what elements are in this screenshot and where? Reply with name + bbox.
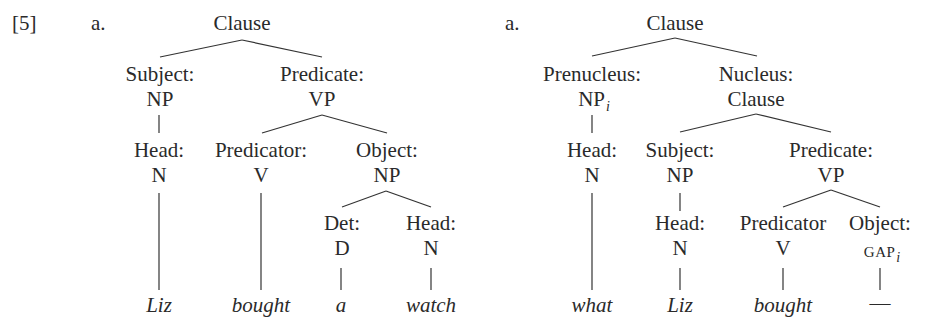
panel-label-b: a. [505,12,520,34]
node-det-cat: D [334,237,349,259]
word-a: a [336,294,347,316]
node-subject-func: Subject: [646,139,715,161]
word-bought: bought [754,294,812,316]
node-object-head-func: Head: [406,212,456,234]
node-subject-cat: NP [147,88,174,110]
node-predicator-cat: V [253,164,268,186]
node-subject-head-cat: N [151,164,166,186]
gap-dash: — [870,292,891,314]
node-object-cat: GAPi [864,239,900,264]
node-subject-head-func: Head: [655,212,705,234]
node-predicator-func: Predicator [740,212,826,234]
node-root-clause: Clause [213,12,270,34]
node-predicator-cat: V [775,237,790,259]
node-predicator-func: Predicator: [215,139,307,161]
node-nucleus-func: Nucleus: [719,63,794,85]
node-root-clause: Clause [646,12,703,34]
gap-index: i [896,250,900,265]
node-subject-func: Subject: [126,63,195,85]
node-predicate-func: Predicate: [789,139,873,161]
node-subject-head-func: Head: [134,139,184,161]
node-prenucleus-head-func: Head: [567,139,617,161]
node-subject-head-cat: N [672,237,687,259]
example-number: [5] [12,12,37,34]
prenucleus-index: i [606,99,610,114]
word-liz: Liz [667,294,693,316]
word-bought: bought [232,294,290,316]
tree-branches [0,0,925,325]
node-object-head-cat: N [423,237,438,259]
word-watch: watch [406,294,456,316]
word-what: what [572,294,613,316]
node-object-cat: NP [374,164,401,186]
node-prenucleus-cat: NPi [578,88,610,113]
node-prenucleus-head-cat: N [584,164,599,186]
node-prenucleus-func: Prenucleus: [543,63,641,85]
node-object-func: Object: [356,139,418,161]
gap-text: GAP [864,244,896,260]
node-predicate-cat: VP [818,164,845,186]
node-object-func: Object: [849,212,911,234]
prenucleus-cat-text: NP [578,87,605,111]
node-nucleus-cat: Clause [727,88,784,110]
node-subject-cat: NP [667,164,694,186]
node-predicate-func: Predicate: [280,63,364,85]
node-predicate-cat: VP [309,88,336,110]
node-det-func: Det: [324,212,360,234]
word-liz: Liz [146,294,172,316]
panel-label-a: a. [91,12,106,34]
